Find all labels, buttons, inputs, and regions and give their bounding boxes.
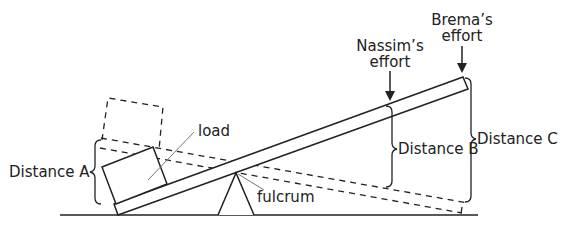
fulcrum-triangle	[218, 173, 254, 215]
label-distance-a: Distance A	[9, 163, 90, 181]
lever-diagram: load fulcrum Distance A Distance B Dista…	[0, 0, 562, 228]
dashed-load-box	[102, 98, 163, 150]
label-brema-2: effort	[442, 27, 483, 45]
label-distance-b: Distance B	[398, 140, 479, 158]
label-distance-c: Distance C	[477, 130, 558, 148]
label-load: load	[198, 122, 230, 140]
nassim-arrow-icon	[385, 71, 395, 101]
brace-distance-a	[90, 140, 101, 204]
label-nassim-2: effort	[370, 53, 411, 71]
brema-arrow-icon	[457, 46, 467, 73]
label-fulcrum: fulcrum	[257, 188, 315, 206]
